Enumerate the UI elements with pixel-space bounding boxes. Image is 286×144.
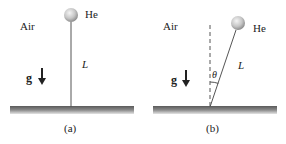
gravity-arrow-icon	[38, 68, 46, 85]
ground	[10, 106, 134, 114]
gas-label: He	[85, 8, 98, 20]
gravity-label: g	[26, 71, 32, 85]
length-label: L	[81, 58, 88, 70]
length-label: L	[237, 59, 244, 71]
balloon-diagram: He Air L g (a) θ He Air L g (b)	[0, 0, 286, 144]
gas-label: He	[253, 22, 266, 34]
medium-label: Air	[163, 20, 178, 32]
panel-caption: (b)	[206, 122, 219, 135]
medium-label: Air	[20, 20, 35, 32]
helium-balloon	[64, 8, 78, 22]
angle-arc	[210, 82, 218, 83]
panel-caption: (a)	[64, 122, 77, 135]
helium-balloon	[231, 16, 245, 30]
ground	[153, 106, 277, 114]
gravity-arrow-icon	[182, 70, 190, 87]
panel-a: He Air L g (a)	[10, 8, 134, 135]
angle-label: θ	[212, 69, 217, 80]
gravity-label: g	[171, 73, 177, 87]
panel-b: θ He Air L g (b)	[153, 16, 277, 135]
